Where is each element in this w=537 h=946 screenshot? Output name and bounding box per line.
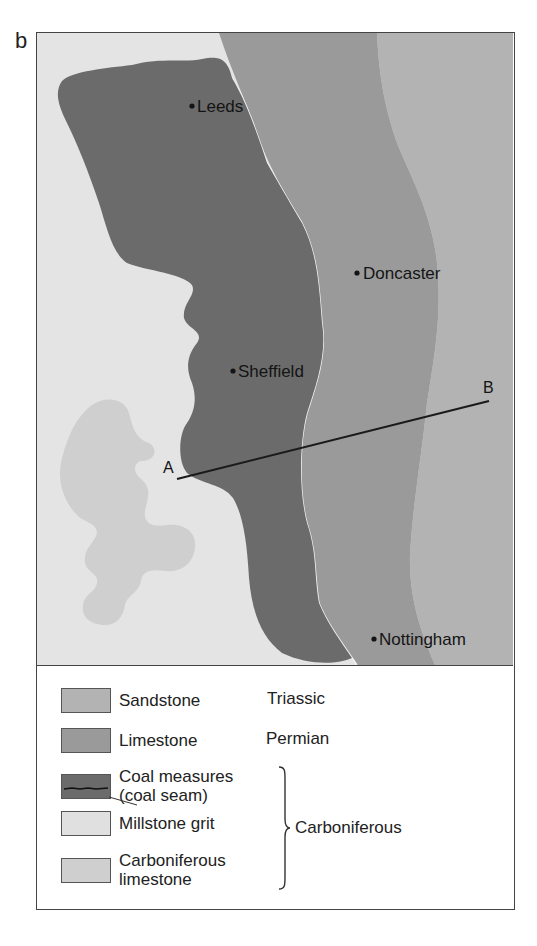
legend-item-carboniferous-limestone: Carboniferous limestone — [61, 851, 226, 889]
legend-item-limestone: Limestone — [61, 728, 197, 753]
city-doncaster: Doncaster — [354, 264, 440, 283]
period-permian: Permian — [266, 729, 329, 749]
svg-text:Doncaster: Doncaster — [363, 264, 441, 283]
sandstone-swatch — [61, 688, 111, 713]
panel-label: b — [15, 28, 27, 54]
carboniferous-limestone-swatch — [61, 858, 111, 883]
city-sheffield: Sheffield — [230, 362, 303, 381]
coal-seam-icon — [62, 775, 109, 797]
legend-label-group: Carboniferous limestone — [119, 851, 226, 889]
legend-item-sandstone: Sandstone — [61, 688, 200, 713]
legend-label: Limestone — [119, 731, 197, 750]
coal-seam-leader-line — [109, 795, 139, 807]
legend-label: Carboniferous — [119, 851, 226, 870]
svg-text:Nottingham: Nottingham — [379, 630, 466, 649]
period-carboniferous: Carboniferous — [295, 818, 402, 838]
legend-item-millstone-grit: Millstone grit — [61, 811, 214, 836]
legend-label: Millstone grit — [119, 814, 214, 833]
legend-sublabel: limestone — [119, 870, 226, 889]
geological-map: A B Leeds Doncaster Sheffield Nottingham — [37, 33, 513, 666]
city-nottingham: Nottingham — [371, 630, 466, 649]
map-legend: Sandstone Triassic Limestone Permian Coa… — [37, 667, 513, 909]
limestone-swatch — [61, 728, 111, 753]
section-start-label: A — [163, 459, 174, 476]
svg-text:Sheffield: Sheffield — [238, 362, 304, 381]
section-end-label: B — [483, 379, 494, 396]
curly-brace-icon — [277, 765, 291, 891]
legend-label: Sandstone — [119, 691, 200, 710]
period-triassic: Triassic — [267, 689, 325, 709]
svg-text:Leeds: Leeds — [197, 97, 243, 116]
millstone-grit-swatch — [61, 811, 111, 836]
figure-frame: A B Leeds Doncaster Sheffield Nottingham — [36, 32, 515, 910]
legend-item-coal-measures: Coal measures (coal seam) — [61, 767, 233, 805]
coal-measures-swatch — [61, 774, 111, 799]
city-leeds: Leeds — [189, 97, 243, 116]
legend-label: Coal measures — [119, 767, 233, 786]
